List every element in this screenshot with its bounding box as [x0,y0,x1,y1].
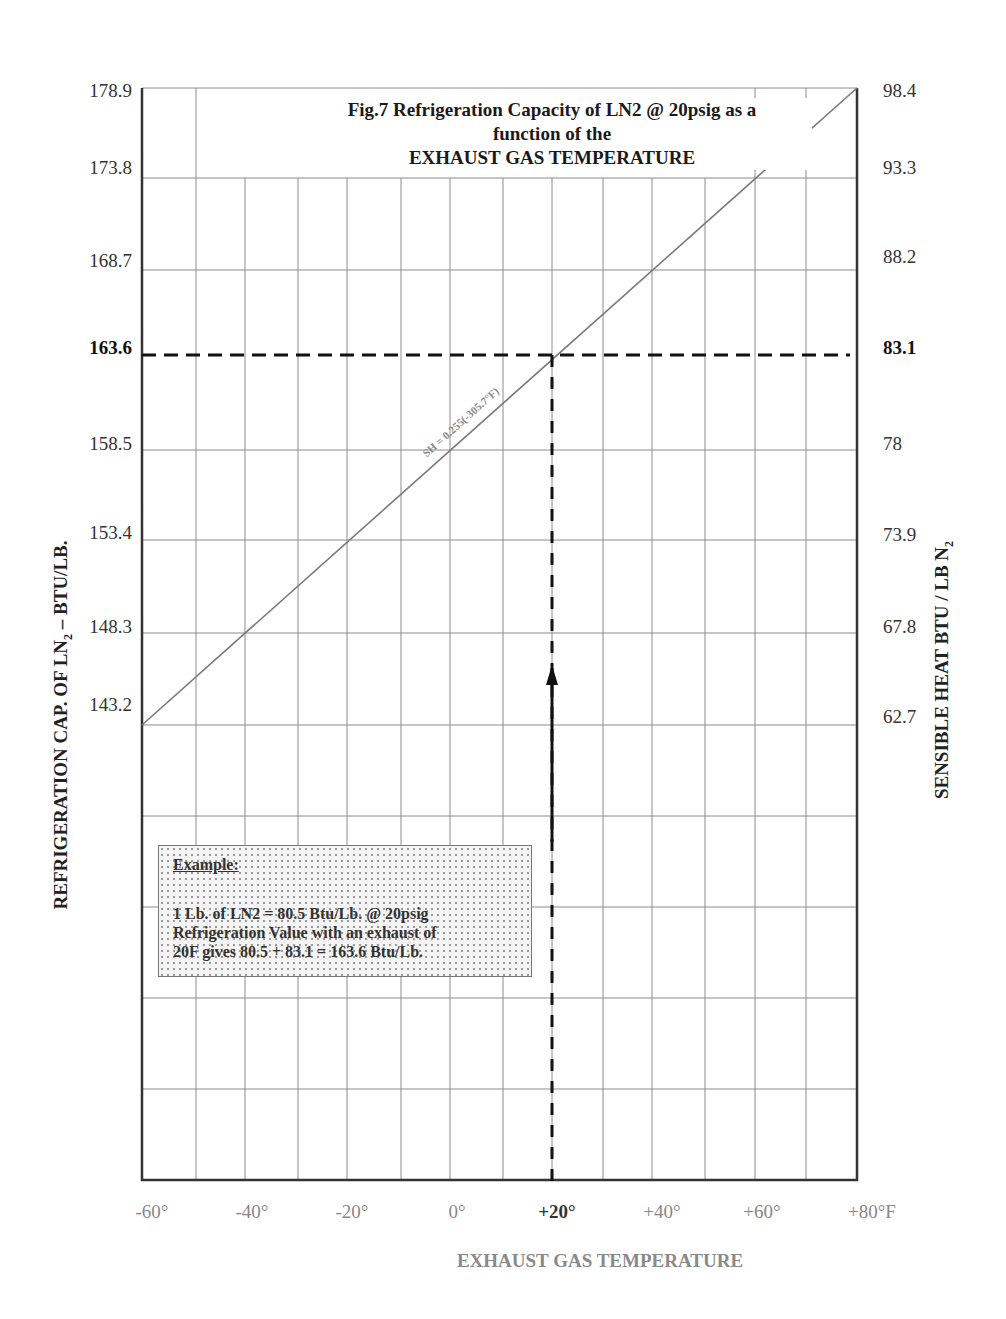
x-tick: +80°F [848,1201,896,1223]
chart-plot-area [0,0,1006,1319]
x-tick: +60° [743,1201,780,1223]
y-right-tick-highlight: 83.1 [883,337,916,359]
x-axis-label: EXHAUST GAS TEMPERATURE [0,1250,1006,1272]
plot-frame [141,88,858,1181]
y-right-label-text: SENSIBLE HEAT BTU / LB N [931,547,952,799]
title-line-2: function of the [292,122,812,146]
y-left-tick: 168.7 [89,250,132,272]
x-tick: -20° [336,1201,369,1223]
sensible-heat-line [142,88,857,725]
y-right-tick: 78 [883,433,902,455]
y-right-tick: 73.9 [883,524,916,546]
x-tick: 0° [448,1201,465,1223]
y-left-tick: 148.3 [89,616,132,638]
y-left-tick: 143.2 [89,694,132,716]
chart-title: Fig.7 Refrigeration Capacity of LN2 @ 20… [292,98,812,170]
example-heading: Example: [173,856,239,874]
y-right-label-subscript: 2 [942,541,956,547]
example-textbox: Example: 1 Lb. of LN2 = 80.5 Btu/Lb. @ 2… [158,845,532,977]
arrow-up-icon [546,665,558,685]
example-line-3: 20F gives 80.5 + 83.1 = 163.6 Btu/Lb. [173,942,437,961]
y-right-tick: 88.2 [883,246,916,268]
y-left-label-tail: – BTU/LB. [50,541,71,634]
x-tick-highlight: +20° [538,1201,575,1223]
y-right-tick: 62.7 [883,706,916,728]
y-left-tick: 153.4 [89,522,132,544]
y-left-tick-highlight: 163.6 [89,337,132,359]
y-right-tick: 67.8 [883,616,916,638]
y-left-tick: 158.5 [89,433,132,455]
title-line-3: EXHAUST GAS TEMPERATURE [292,146,812,170]
x-tick: -40° [236,1201,269,1223]
y-left-tick: 173.8 [89,157,132,179]
y-left-label-subscript: 2 [61,634,75,640]
example-line-2: Refrigeration Value with an exhaust of [173,923,437,942]
y-left-axis-label: REFRIGERATION CAP. OF LN2 – BTU/LB. [50,541,76,910]
x-axis-label-text: EXHAUST GAS TEMPERATURE [457,1250,743,1271]
example-body: 1 Lb. of LN2 = 80.5 Btu/Lb. @ 20psig Ref… [173,904,437,961]
y-left-tick: 178.9 [89,80,132,102]
x-tick: +40° [643,1201,680,1223]
y-right-tick: 93.3 [883,157,916,179]
vertical-gridlines [196,88,806,1180]
x-tick: -60° [136,1201,169,1223]
y-left-label-text: REFRIGERATION CAP. OF LN [50,640,71,910]
title-line-1: Fig.7 Refrigeration Capacity of LN2 @ 20… [292,98,812,122]
example-line-1: 1 Lb. of LN2 = 80.5 Btu/Lb. @ 20psig [173,904,437,923]
y-right-axis-label: SENSIBLE HEAT BTU / LB N2 [931,541,957,799]
y-right-tick: 98.4 [883,80,916,102]
